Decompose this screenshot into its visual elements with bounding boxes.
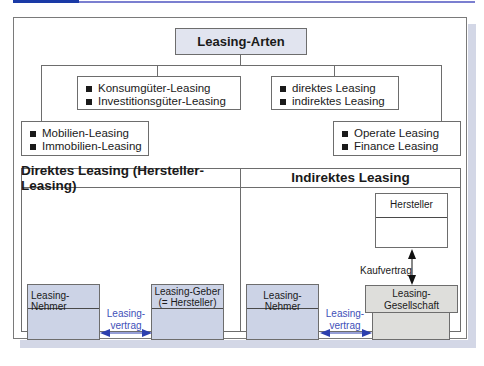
category-goods: Konsumgüter-Leasing Investitionsgüter-Le… (77, 76, 241, 110)
category-contract: Operate Leasing Finance Leasing (333, 121, 461, 156)
bullet-icon (280, 86, 286, 92)
vertical-bidirectional-arrow-icon (407, 249, 417, 285)
leasing-company-base (372, 312, 450, 340)
bullet-icon (86, 99, 92, 105)
bullet-icon (86, 86, 92, 92)
category-relation: direktes Leasing indirektes Leasing (271, 76, 399, 110)
diagram-title-text: Leasing-Arten (197, 34, 284, 49)
list-item: direktes Leasing (280, 82, 398, 95)
list-item: Immobilien-Leasing (30, 140, 148, 153)
purchase-contract-label: Kaufvertrag (360, 265, 412, 276)
indirect-lessee-box: Leasing-Nehmer (246, 284, 319, 340)
direct-leasing-header: Direktes Leasing (Hersteller-Leasing) (21, 168, 241, 187)
connector (441, 65, 442, 122)
header-accent-bar (13, 0, 79, 3)
bullet-icon (280, 99, 286, 105)
connector (41, 65, 442, 66)
list-item: Investitionsgüter-Leasing (86, 95, 240, 108)
header-rule (79, 1, 475, 3)
list-item: Mobilien-Leasing (30, 127, 148, 140)
category-object: Mobilien-Leasing Immobilien-Leasing (21, 121, 149, 156)
list-item: Finance Leasing (342, 140, 460, 153)
bullet-icon (342, 131, 348, 137)
frame-shadow-right (468, 24, 476, 344)
connector (157, 65, 158, 76)
bidirectional-arrow-icon (320, 328, 372, 338)
list-item: Konsumgüter-Leasing (86, 82, 240, 95)
direct-lessee-box: Leasing-Nehmer (27, 284, 100, 340)
bullet-icon (30, 131, 36, 137)
indirect-leasing-header: Indirektes Leasing (240, 168, 461, 187)
list-item: indirektes Leasing (280, 95, 398, 108)
connector (334, 65, 335, 76)
list-item: Operate Leasing (342, 127, 460, 140)
direct-lessor-box: Leasing-Geber (= Hersteller) (151, 284, 224, 340)
bullet-icon (342, 144, 348, 150)
bullet-icon (30, 144, 36, 150)
bidirectional-arrow-icon (100, 328, 152, 338)
manufacturer-box: Hersteller (375, 193, 448, 248)
leasing-company-box: Leasing- Gesellschaft (365, 285, 458, 313)
frame-shadow-bottom (20, 340, 476, 348)
diagram-title: Leasing-Arten (175, 28, 307, 55)
connector (41, 65, 42, 122)
